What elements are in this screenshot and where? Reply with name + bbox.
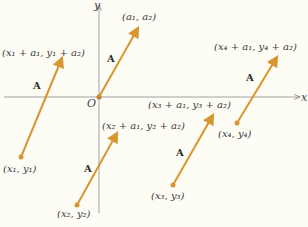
x-axis-label: x — [301, 91, 308, 104]
vector-name-2: A — [83, 163, 92, 174]
vector-4: (x₄ + a₁, y₄ + a₂) (x₄, y₄) A — [214, 41, 297, 139]
vector-2: (x₂ + a₁, y₂ + a₂) (x₂, y₂) A — [57, 120, 185, 219]
head-label-origin: (a₁, a₂) — [122, 11, 156, 22]
vector-3: (x₃ + a₁, y₃ + a₂) (x₃, y₃) A — [148, 99, 231, 201]
head-label-2: (x₂ + a₁, y₂ + a₂) — [102, 120, 185, 131]
tail-label-3: (x₃, y₃) — [151, 190, 185, 201]
tail-label-4: (x₄, y₄) — [218, 128, 252, 139]
tail-label-1: (x₁, y₁) — [3, 163, 37, 174]
vector-1: (x₁ + a₁, y₁ + a₂) (x₁, y₁) A — [2, 47, 85, 174]
vector-name-origin: A — [106, 53, 115, 64]
origin-label: O — [87, 97, 96, 110]
y-axis-label: y — [93, 0, 101, 12]
head-label-3: (x₃ + a₁, y₃ + a₂) — [148, 99, 231, 110]
head-label-4: (x₄ + a₁, y₄ + a₂) — [214, 41, 297, 52]
vector-name-1: A — [32, 80, 41, 91]
head-label-1: (x₁ + a₁, y₁ + a₂) — [2, 47, 85, 58]
tail-label-2: (x₂, y₂) — [57, 208, 91, 219]
vector-name-3: A — [175, 147, 184, 158]
vector-origin: (a₁, a₂) A — [97, 11, 157, 100]
vector-diagram: x y O (a₁, a₂) A (x₁ + a₁, y₁ + a₂) (x₁,… — [0, 0, 308, 227]
vector-name-4: A — [245, 72, 254, 83]
